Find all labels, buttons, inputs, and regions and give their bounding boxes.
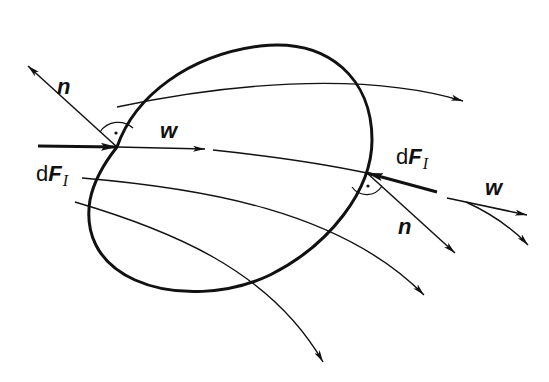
streamline-top: [117, 83, 463, 107]
diagram-canvas: n w dFI dFI w n: [0, 0, 549, 382]
w-arrow-left: [117, 147, 205, 149]
dF-arrow-left: [38, 146, 117, 147]
w-flow-line-through: [213, 150, 367, 173]
label-n-right: n: [398, 216, 411, 238]
label-dF-left-d: d: [36, 161, 48, 186]
streamline-bottom: [75, 202, 323, 362]
label-n-left: n: [57, 76, 70, 98]
right-angle-dot-right: [366, 184, 369, 187]
diagram-svg: [0, 0, 549, 382]
label-dF-right-d: d: [396, 144, 408, 169]
label-dF-left-F: F: [48, 161, 61, 186]
n-arrow-left: [28, 66, 117, 147]
label-dF-right-sub: I: [423, 155, 428, 172]
streamline-middle: [82, 178, 424, 295]
label-dF-left-sub: I: [63, 172, 68, 189]
label-w-left: w: [160, 120, 177, 142]
control-surface: [89, 45, 372, 292]
label-dF-left: dFI: [36, 163, 68, 185]
label-w-right: w: [485, 177, 502, 199]
label-dF-right: dFI: [396, 146, 428, 168]
right-angle-dot-left: [114, 131, 117, 134]
label-dF-right-F: F: [408, 144, 421, 169]
